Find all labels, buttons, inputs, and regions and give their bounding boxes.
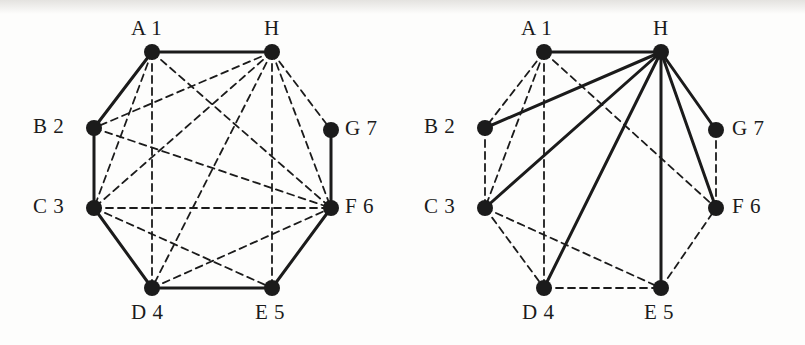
- node-label-f: F 6: [345, 196, 374, 217]
- graph-node-c[interactable]: [86, 200, 102, 216]
- solid-edge-HF: [661, 52, 716, 208]
- node-label-h: H: [264, 18, 280, 39]
- node-label-e: E 5: [255, 302, 285, 323]
- left-graph-panel: A 1B 2C 3D 4E 5F 6G 7H: [0, 0, 402, 345]
- graph-node-g[interactable]: [323, 122, 339, 138]
- graph-node-d[interactable]: [536, 280, 552, 296]
- node-label-d: D 4: [522, 302, 554, 323]
- node-label-b: B 2: [33, 116, 64, 137]
- node-label-g: G 7: [732, 118, 764, 139]
- dashed-edge-HG: [272, 52, 331, 130]
- node-label-g: G 7: [345, 118, 377, 139]
- dashed-edge-CD: [485, 208, 544, 288]
- solid-edge-HD: [544, 52, 661, 288]
- dashed-edge-EF: [661, 208, 716, 288]
- solid-edge-EF: [272, 208, 331, 288]
- node-label-c: C 3: [33, 196, 64, 217]
- graph-node-c[interactable]: [477, 200, 493, 216]
- solid-edge-HG: [661, 52, 716, 130]
- node-label-f: F 6: [732, 196, 761, 217]
- dashed-edge-AF: [544, 52, 716, 208]
- node-label-h: H: [653, 18, 669, 39]
- graph-node-f[interactable]: [323, 200, 339, 216]
- graph-node-h[interactable]: [264, 44, 280, 60]
- dashed-edge-HD: [152, 52, 272, 288]
- solid-edge-HB: [485, 52, 661, 128]
- dashed-edge-HC: [94, 52, 272, 208]
- figure-root: A 1B 2C 3D 4E 5F 6G 7H A 1B 2C 3D 4E 5F …: [0, 0, 805, 345]
- graph-node-g[interactable]: [708, 122, 724, 138]
- node-label-c: C 3: [424, 196, 455, 217]
- graph-node-e[interactable]: [264, 280, 280, 296]
- graph-node-a[interactable]: [144, 44, 160, 60]
- dashed-edge-AC: [485, 52, 544, 208]
- right-graph-panel: A 1B 2C 3D 4E 5F 6G 7H: [403, 0, 805, 345]
- solid-edge-CD: [94, 208, 152, 288]
- node-label-a: A 1: [131, 18, 162, 39]
- dashed-edge-HB: [94, 52, 272, 128]
- dashed-edge-HF: [272, 52, 331, 208]
- dashed-edge-AC: [94, 52, 152, 208]
- graph-node-f[interactable]: [708, 200, 724, 216]
- graph-node-b[interactable]: [477, 120, 493, 136]
- node-label-b: B 2: [424, 116, 455, 137]
- solid-edge-AB: [94, 52, 152, 128]
- node-label-e: E 5: [644, 302, 674, 323]
- left-graph-svg: [0, 0, 402, 345]
- graph-node-h[interactable]: [653, 44, 669, 60]
- graph-node-b[interactable]: [86, 120, 102, 136]
- solid-edge-HC: [485, 52, 661, 208]
- right-graph-svg: [403, 0, 805, 345]
- graph-node-a[interactable]: [536, 44, 552, 60]
- dashed-edge-DF: [152, 208, 331, 288]
- node-label-d: D 4: [131, 302, 163, 323]
- node-label-a: A 1: [521, 18, 552, 39]
- dashed-edge-CE: [485, 208, 661, 288]
- dashed-edge-CE: [94, 208, 272, 288]
- graph-node-d[interactable]: [144, 280, 160, 296]
- dashed-edge-BF: [94, 128, 331, 208]
- dashed-edge-AF: [152, 52, 331, 208]
- graph-node-e[interactable]: [653, 280, 669, 296]
